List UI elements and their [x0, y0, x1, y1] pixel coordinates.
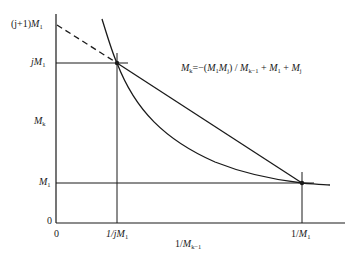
xtick-zero: 0	[54, 228, 59, 239]
diagram-canvas	[0, 0, 358, 257]
linear-segment	[117, 63, 302, 183]
ytick-zero: 0	[47, 215, 52, 226]
y-axis-label: Mk	[34, 115, 46, 127]
xtick-1-over-M1: 1/M1	[291, 228, 310, 240]
hyperbola-curve	[102, 19, 330, 185]
xtick-1-over-jM1: 1/jM1	[106, 228, 128, 240]
dashed-extension	[57, 25, 117, 63]
curve-equation: Mk=−(M1Mj) / Mk−1 + M1 + Mj	[181, 62, 302, 74]
intersection-point-lower	[300, 181, 304, 185]
ytick-M1: M1	[39, 176, 51, 188]
ytick-jM1: jM1	[31, 56, 45, 68]
x-axis-label: 1/Mk−1	[175, 238, 201, 250]
ytick-j-plus-1-M1: (j+1)M1	[11, 18, 43, 30]
intersection-point-upper	[115, 61, 119, 65]
